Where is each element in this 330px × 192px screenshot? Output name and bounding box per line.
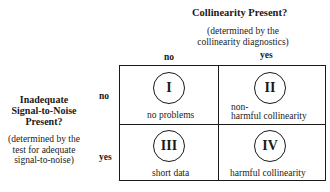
column-header-title: Collinearity Present? xyxy=(192,7,287,18)
numeral-circle-II: II xyxy=(254,72,286,104)
row-header-title-line3: Present? xyxy=(4,116,84,127)
row-header-note-line3: signal-to-noise) xyxy=(2,155,86,166)
quadrant-III: III short data xyxy=(120,125,218,182)
row-header-note-line1: (determined by the xyxy=(2,134,86,145)
row-label-yes: yes xyxy=(99,152,112,162)
column-header-note-line2: collinearity diagnostics) xyxy=(187,37,299,48)
quadrant-I-label: no problems xyxy=(147,110,194,120)
numeral-circle-III: III xyxy=(153,130,185,162)
row-header-note-line2: test for adequate xyxy=(2,145,86,156)
row-header-title-line1: Inadequate xyxy=(4,94,84,105)
numeral-circle-IV: IV xyxy=(254,130,286,162)
row-header-title: Inadequate Signal-to-Noise Present? xyxy=(4,94,84,127)
quadrant-II-label-line2: harmful collinearity xyxy=(231,111,307,121)
row-header-title-line2: Signal-to-Noise xyxy=(4,105,84,116)
column-label-no: no xyxy=(164,52,174,62)
quadrant-IV: IV harmful collinearity xyxy=(219,125,324,182)
quadrant-grid: I no problems II non- harmful collineari… xyxy=(119,65,326,181)
numeral-circle-I: I xyxy=(153,72,185,104)
quadrant-III-label: short data xyxy=(152,168,189,178)
column-header-note: (determined by the collinearity diagnost… xyxy=(187,26,299,47)
column-label-yes: yes xyxy=(260,50,273,60)
quadrant-II: II non- harmful collinearity xyxy=(219,66,324,123)
row-label-no: no xyxy=(99,91,109,101)
quadrant-IV-label: harmful collinearity xyxy=(230,168,306,178)
row-header-note: (determined by the test for adequate sig… xyxy=(2,134,86,166)
column-header-note-line1: (determined by the xyxy=(187,26,299,37)
quadrant-I: I no problems xyxy=(120,66,218,123)
